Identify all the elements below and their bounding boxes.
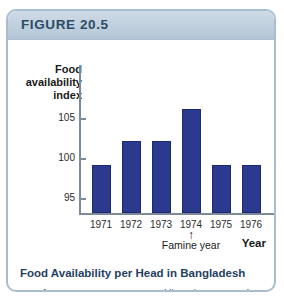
figure-caption-title: Food Availability per Head in Bangladesh	[20, 267, 266, 279]
bar-1971[interactable]	[92, 165, 111, 213]
y-tick-mark-100	[79, 158, 86, 160]
y-tick-mark-95	[79, 198, 86, 200]
figure-container: FIGURE 20.5 Food availability index 105 …	[6, 9, 276, 292]
bar-1973[interactable]	[152, 141, 171, 213]
y-axis-title-line-2: availability	[6, 76, 82, 89]
y-axis-title-line-3: index	[6, 89, 82, 102]
y-tick-mark-105	[79, 118, 86, 120]
bar-1976[interactable]	[242, 165, 261, 213]
chart-plot-area: Food availability index 105 100 95 1971 …	[8, 39, 274, 290]
figure-number-label: FIGURE 20.5	[21, 17, 109, 32]
bar-1975[interactable]	[212, 165, 231, 213]
famine-year-annotation: Famine year	[136, 239, 246, 251]
bar-1972[interactable]	[122, 141, 141, 213]
x-axis-title: Year	[242, 237, 266, 249]
x-tick-label-1973: 1973	[144, 219, 178, 230]
source-lead-label: Data from:	[20, 288, 63, 292]
x-tick-label-1972: 1972	[114, 219, 148, 230]
y-axis-title: Food availability index	[6, 63, 82, 102]
y-axis-title-line-1: Food	[6, 63, 82, 76]
y-tick-label-95: 95	[41, 192, 75, 203]
bar-1974[interactable]	[182, 109, 201, 213]
y-tick-label-105: 105	[41, 112, 75, 123]
x-tick-label-1975: 1975	[204, 219, 238, 230]
figure-source-note: Data from: Sen, Amartya. 1990. Public Ac…	[20, 287, 266, 292]
figure-header-band: FIGURE 20.5	[8, 11, 274, 40]
y-tick-label-100: 100	[41, 152, 75, 163]
x-tick-label-1971: 1971	[84, 219, 118, 230]
y-axis-line	[79, 65, 81, 213]
x-tick-label-1976: 1976	[234, 219, 268, 230]
x-axis-line	[79, 213, 274, 215]
